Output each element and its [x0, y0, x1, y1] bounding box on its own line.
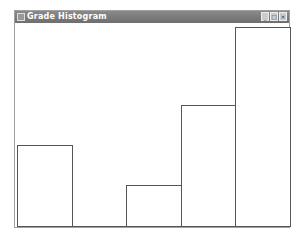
window-title: Grade Histogram: [27, 11, 107, 23]
histogram-bar: [181, 105, 237, 227]
histogram-window: Grade Histogram _ □ ×: [14, 10, 290, 228]
title-bar[interactable]: Grade Histogram _ □ ×: [15, 11, 289, 23]
histogram-bar: [126, 185, 182, 227]
histogram-bar: [235, 27, 291, 227]
minimize-button[interactable]: _: [261, 12, 269, 21]
close-button[interactable]: ×: [279, 12, 287, 21]
histogram-bar: [17, 145, 73, 227]
maximize-button[interactable]: □: [270, 12, 278, 21]
app-icon: [17, 13, 25, 21]
